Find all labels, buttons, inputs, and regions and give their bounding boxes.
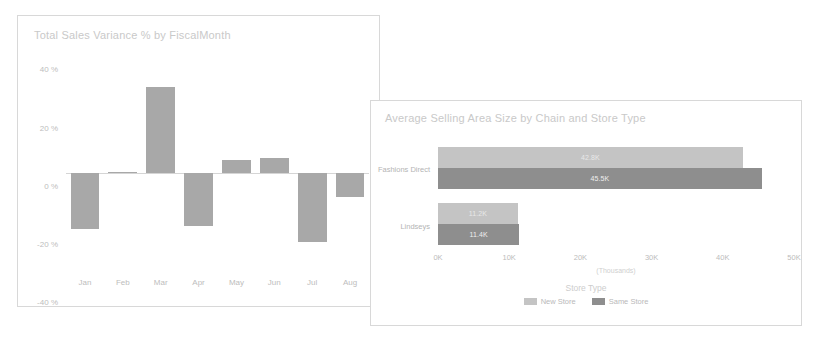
column-slot-feb <box>104 60 142 270</box>
bar-aug[interactable] <box>336 173 365 197</box>
y-tick-neg20: -20 % <box>37 240 58 249</box>
bar-group-lindseys: 11.2K 11.4K <box>438 203 794 245</box>
x-tick-30k: 30K <box>645 253 658 262</box>
bar-lindseys-same-store[interactable]: 11.4K <box>438 224 519 245</box>
report-canvas: Total Sales Variance % by FiscalMonth 40… <box>0 0 817 343</box>
x-tick-jan: Jan <box>78 278 91 287</box>
category-label-lindseys: Lindseys <box>400 222 430 231</box>
bar-group-fashions-direct: 42.8K 45.5K <box>438 147 794 189</box>
column-slot-apr <box>180 60 218 270</box>
y-tick-neg40: -40 % <box>37 298 58 307</box>
selling-area-value-axis: 0K 10K 20K 30K 40K 50K <box>438 253 794 267</box>
bar-mar[interactable] <box>146 87 175 174</box>
legend-swatch-new-store <box>524 298 537 305</box>
x-tick-may: May <box>229 278 244 287</box>
legend-swatch-same-store <box>592 298 605 305</box>
bar-lindseys-new-store[interactable]: 11.2K <box>438 203 518 224</box>
value-axis-unit-label: (Thousands) <box>438 267 794 274</box>
bar-label-fashions-direct-new-store: 42.8K <box>581 154 600 161</box>
y-tick-40: 40 % <box>40 65 58 74</box>
x-tick-jul: Jul <box>307 278 317 287</box>
column-slot-jul <box>293 60 331 270</box>
bar-label-lindseys-new-store: 11.2K <box>469 210 487 217</box>
legend-item-new-store[interactable]: New Store <box>524 297 576 306</box>
variance-chart-title: Total Sales Variance % by FiscalMonth <box>34 29 231 41</box>
variance-y-axis: 40 % 20 % 0 % -20 % -40 % <box>18 60 64 293</box>
variance-chart-card[interactable]: Total Sales Variance % by FiscalMonth 40… <box>17 15 380 307</box>
variance-bars <box>66 60 369 270</box>
x-tick-20k: 20K <box>574 253 587 262</box>
legend-label-new-store: New Store <box>541 297 576 306</box>
x-tick-0k: 0K <box>433 253 442 262</box>
selling-area-category-axis: Fashions Direct Lindseys <box>371 139 434 251</box>
bar-may[interactable] <box>222 160 251 173</box>
column-slot-mar <box>142 60 180 270</box>
x-tick-50k: 50K <box>787 253 800 262</box>
x-tick-jun: Jun <box>268 278 281 287</box>
bar-jun[interactable] <box>260 158 289 174</box>
x-tick-mar: Mar <box>154 278 168 287</box>
variance-plot-area <box>66 60 369 270</box>
column-slot-jun <box>255 60 293 270</box>
bar-fashions-direct-same-store[interactable]: 45.5K <box>438 168 762 189</box>
column-slot-may <box>218 60 256 270</box>
variance-x-axis: Jan Feb Mar Apr May Jun Jul Aug <box>66 278 369 292</box>
legend-label-same-store: Same Store <box>609 297 649 306</box>
selling-area-chart-title: Average Selling Area Size by Chain and S… <box>385 112 646 124</box>
legend-item-same-store[interactable]: Same Store <box>592 297 649 306</box>
bar-jul[interactable] <box>298 173 327 241</box>
store-type-legend: Store Type New Store Same Store <box>371 283 801 306</box>
column-slot-jan <box>66 60 104 270</box>
bar-feb[interactable] <box>108 172 137 174</box>
x-tick-10k: 10K <box>503 253 516 262</box>
selling-area-chart-card[interactable]: Average Selling Area Size by Chain and S… <box>370 100 802 326</box>
x-tick-apr: Apr <box>192 278 204 287</box>
y-tick-20: 20 % <box>40 123 58 132</box>
y-tick-0: 0 % <box>44 181 58 190</box>
legend-title: Store Type <box>371 283 801 293</box>
column-slot-aug <box>331 60 369 270</box>
category-label-fashions-direct: Fashions Direct <box>378 165 430 174</box>
bar-label-lindseys-same-store: 11.4K <box>469 231 487 238</box>
bar-jan[interactable] <box>71 173 100 228</box>
x-tick-feb: Feb <box>116 278 130 287</box>
selling-area-plot: 42.8K 45.5K 11.2K 11.4K <box>438 139 794 251</box>
bar-label-fashions-direct-same-store: 45.5K <box>591 175 610 182</box>
x-tick-40k: 40K <box>716 253 729 262</box>
x-tick-aug: Aug <box>343 278 357 287</box>
bar-fashions-direct-new-store[interactable]: 42.8K <box>438 147 743 168</box>
bar-apr[interactable] <box>184 173 213 226</box>
